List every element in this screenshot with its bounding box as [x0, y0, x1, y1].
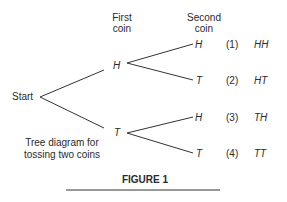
caption-line1: Tree diagram for [18, 137, 106, 149]
first-coin-header-line1: First [104, 12, 140, 23]
outcome-result-4: TT [254, 148, 266, 159]
second-coin-header: Second coin [184, 12, 224, 34]
diagram-caption: Tree diagram for tossing two coins [18, 137, 106, 161]
caption-line2: tossing two coins [18, 149, 106, 161]
start-node: Start [12, 91, 33, 102]
branch-h-to-t [127, 63, 193, 80]
outcome-index-3: (3) [226, 112, 238, 123]
branch-h-to-h [127, 44, 193, 63]
first-coin-header: First coin [104, 12, 140, 34]
second-level-node-h1: H [195, 39, 202, 50]
first-level-node-h: H [113, 60, 120, 71]
branch-t-to-t [127, 133, 193, 153]
outcome-index-4: (4) [226, 148, 238, 159]
branch-start-to-t [40, 97, 104, 128]
outcome-result-2: HT [254, 75, 267, 86]
second-level-node-t1: T [196, 75, 202, 86]
branch-t-to-h [127, 117, 193, 133]
outcome-index-2: (2) [226, 75, 238, 86]
second-level-node-t2: T [196, 148, 202, 159]
first-level-node-t: T [114, 127, 120, 138]
outcome-result-3: TH [254, 112, 267, 123]
branch-start-to-h [40, 70, 104, 97]
tree-branches [0, 0, 287, 202]
second-level-node-h2: H [195, 112, 202, 123]
second-coin-header-line2: coin [184, 23, 224, 34]
first-coin-header-line2: coin [104, 23, 140, 34]
second-coin-header-line1: Second [184, 12, 224, 23]
figure-label: FIGURE 1 [110, 174, 180, 185]
outcome-index-1: (1) [226, 39, 238, 50]
outcome-result-1: HH [254, 39, 268, 50]
